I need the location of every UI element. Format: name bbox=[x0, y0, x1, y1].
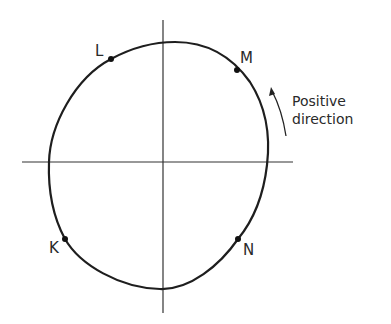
closed-curve bbox=[49, 42, 268, 289]
point-K-dot bbox=[62, 236, 68, 242]
point-N-label: N bbox=[243, 241, 254, 259]
point-N-dot bbox=[235, 236, 241, 242]
annotation-line-2: direction bbox=[292, 111, 353, 127]
point-L-label: L bbox=[95, 42, 104, 60]
point-M-label: M bbox=[240, 49, 253, 67]
point-K-label: K bbox=[49, 239, 60, 257]
positive-direction-arrow bbox=[272, 91, 286, 136]
diagram-canvas: L M N K Positive direction bbox=[0, 0, 391, 324]
annotation-line-1: Positive bbox=[292, 93, 346, 109]
point-L-dot bbox=[108, 56, 114, 62]
point-M-dot bbox=[234, 67, 240, 73]
